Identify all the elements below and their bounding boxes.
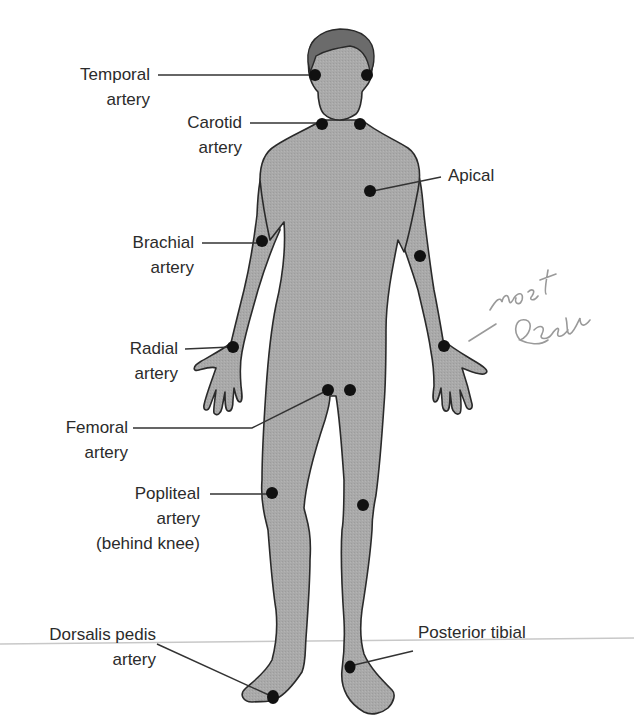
label-line: artery xyxy=(10,647,156,672)
pulse-dot-femoral-right xyxy=(344,384,356,396)
label-line: artery xyxy=(20,440,128,465)
label-apical: Apical xyxy=(448,163,568,188)
pulse-dot-popliteal-right xyxy=(357,499,369,511)
pulse-dot-posterior-tibial xyxy=(345,661,356,674)
pulse-dot-temporal-right xyxy=(361,69,373,81)
pulse-dot-brachial-right xyxy=(414,250,426,262)
label-line: Temporal xyxy=(40,62,150,87)
label-line: artery xyxy=(140,135,242,160)
label-line: Femoral xyxy=(20,415,128,440)
pulse-dot-radial-right xyxy=(438,340,450,352)
label-popliteal-artery: Popliteal artery (behind knee) xyxy=(60,481,200,556)
label-line: artery xyxy=(60,506,200,531)
handwritten-annotation xyxy=(469,270,590,344)
handwriting-pointer xyxy=(469,324,496,341)
label-carotid-artery: Carotid artery xyxy=(140,110,242,160)
pulse-dot-carotid-left xyxy=(316,118,328,130)
pulse-sites-diagram: Temporal artery Carotid artery Apical Br… xyxy=(0,0,634,719)
pulse-dot-popliteal-left xyxy=(266,487,278,499)
label-radial-artery: Radial artery xyxy=(80,336,178,386)
label-brachial-artery: Brachial artery xyxy=(80,230,194,280)
label-line: Apical xyxy=(448,163,568,188)
label-femoral-artery: Femoral artery xyxy=(20,415,128,465)
pulse-dot-radial-left xyxy=(227,341,239,353)
pulse-dot-brachial-left xyxy=(256,235,268,247)
label-dorsalis-pedis-artery: Dorsalis pedis artery xyxy=(10,622,156,672)
label-line: artery xyxy=(80,255,194,280)
pulse-dot-dorsalis-pedis xyxy=(267,690,279,704)
label-line: Popliteal xyxy=(60,481,200,506)
label-line: Carotid xyxy=(140,110,242,135)
pulse-dot-femoral-left xyxy=(322,384,334,396)
label-line: Radial xyxy=(80,336,178,361)
handwriting-most xyxy=(490,270,556,310)
leader-dorsalis-pedis xyxy=(157,644,271,696)
pulse-dot-temporal-left xyxy=(309,69,321,81)
pulse-dot-carotid-right xyxy=(354,118,366,130)
label-line: Dorsalis pedis xyxy=(10,622,156,647)
label-posterior-tibial: Posterior tibial xyxy=(418,620,598,645)
pulse-dot-apical xyxy=(364,185,376,197)
label-line: artery xyxy=(80,361,178,386)
label-line: Brachial xyxy=(80,230,194,255)
label-temporal-artery: Temporal artery xyxy=(40,62,150,112)
torso-legs xyxy=(242,120,419,714)
label-line: Posterior tibial xyxy=(418,620,598,645)
label-line: (behind knee) xyxy=(60,531,200,556)
handwriting-reliable xyxy=(516,318,590,344)
label-line: artery xyxy=(40,87,150,112)
